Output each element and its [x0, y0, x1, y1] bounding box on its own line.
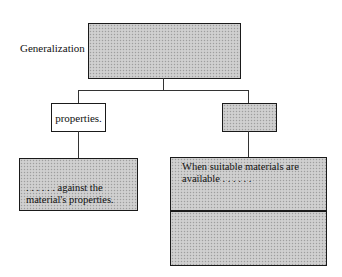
connector-right-down: [248, 90, 249, 104]
connector-left-down: [78, 90, 79, 104]
left-detail-box: . . . . . . against the material's prope…: [19, 158, 138, 211]
left-detail-line-2: material's properties.: [26, 194, 114, 206]
right-detail-line-2: available . . . . . .: [182, 173, 299, 185]
properties-label: properties.: [52, 112, 105, 124]
generalization-label: Generalization: [20, 42, 85, 54]
right-child-box: [222, 103, 277, 132]
root-box: [88, 23, 241, 79]
left-detail-text: . . . . . . against the material's prope…: [26, 182, 114, 206]
connector-left-detail: [78, 131, 79, 159]
right-detail-box: When suitable materials are available . …: [170, 157, 327, 266]
properties-box: properties.: [51, 103, 106, 132]
right-detail-line-1: When suitable materials are: [182, 161, 299, 173]
right-detail-divider: [171, 210, 326, 212]
connector-right-detail: [248, 131, 249, 158]
connector-horizontal: [78, 90, 249, 91]
left-detail-line-1: . . . . . . against the: [26, 182, 114, 194]
right-detail-text: When suitable materials are available . …: [182, 161, 299, 185]
